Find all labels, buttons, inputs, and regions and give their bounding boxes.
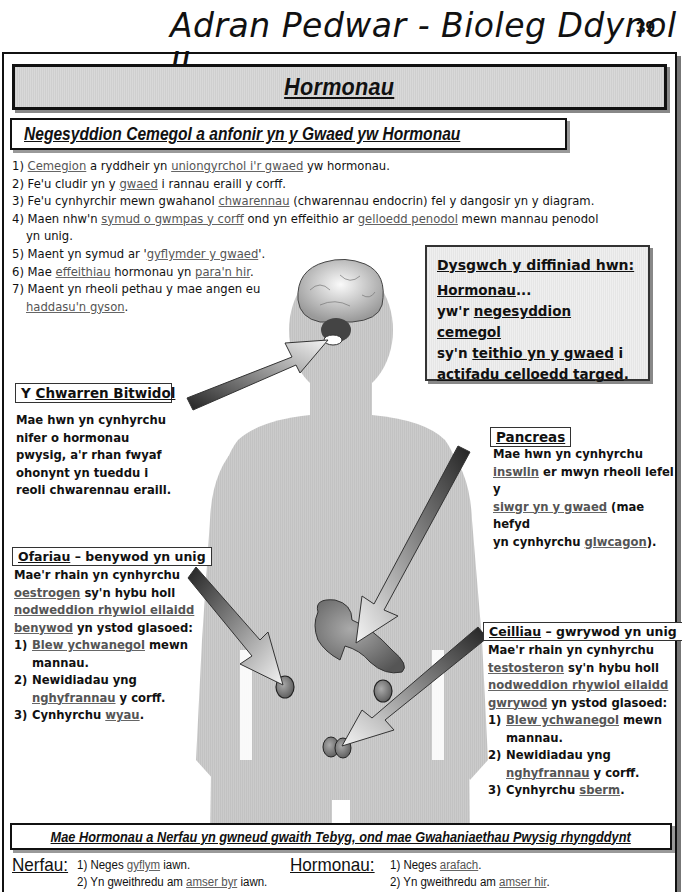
fact-1: 1) Cemegion a ryddheir yn uniongyrchol i… — [12, 158, 672, 176]
comparison-heading-box: Mae Hormonau a Nerfau yn gwneud gwaith T… — [10, 823, 672, 850]
comparison-heading: Mae Hormonau a Nerfau yn gwneud gwaith T… — [51, 829, 631, 845]
testes-description: Mae'r rhain yn cynhyrchu testosteron sy'… — [488, 642, 668, 800]
nerves-item-1: 1) Neges gyflym iawn. — [77, 858, 190, 872]
pancreas-description: Mae hwn yn cynhyrchu inswlin er mwyn rhe… — [493, 446, 682, 551]
definition-line-3: actifadu celloedd targed. — [437, 364, 638, 385]
definition-line-1: yw'r negesyddion cemegol — [437, 301, 638, 343]
hormones-item-2: 2) Yn gweithredu am amser hir. — [390, 875, 550, 889]
fact-4: 4) Maen nhw'n symud o gwmpas y corff ond… — [12, 211, 672, 229]
ovaries-label: Ofariau – benywod yn unig — [12, 547, 212, 566]
ovaries-description: Mae'r rhain yn cynhyrchu oestrogen sy'n … — [14, 567, 194, 725]
nerves-item-2: 2) Yn gweithredu am amser byr iawn. — [77, 875, 267, 889]
fact-2: 2) Fe'u cludir yn y gwaed i rannau erail… — [12, 176, 672, 194]
hormones-heading: Hormonau: — [290, 854, 375, 876]
fact-3: 3) Fe'u cynhyrchir mewn gwahanol chwaren… — [12, 193, 672, 211]
definition-box: Dysgwch y diffiniad hwn: Hormonau... yw'… — [425, 245, 650, 381]
definition-line-2: sy'n teithio yn y gwaed i — [437, 343, 638, 364]
definition-title: Dysgwch y diffiniad hwn: — [437, 255, 638, 276]
testes-label: Ceilliau – gwrywod yn unig — [483, 622, 682, 641]
pituitary-label: Y Chwarren Bitwidol — [15, 383, 172, 403]
nerves-heading: Nerfau: — [12, 854, 68, 876]
pancreas-label: Pancreas — [490, 427, 571, 447]
pituitary-description: Mae hwn yn cynhyrchu nifer o hormonau pw… — [16, 412, 171, 500]
definition-term-line: Hormonau... — [437, 280, 638, 301]
fact-4-cont: yn unig. — [12, 228, 672, 246]
hormones-item-1: 1) Neges arafach. — [390, 858, 481, 872]
